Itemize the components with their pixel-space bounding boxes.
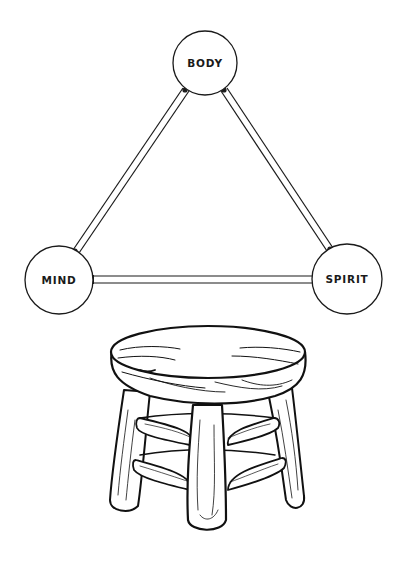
edge-mind-spirit xyxy=(93,275,313,284)
diagram-canvas: BODY MIND SPIRIT xyxy=(0,0,404,563)
node-mind: MIND xyxy=(25,246,93,314)
node-spirit: SPIRIT xyxy=(312,244,382,314)
node-mind-label: MIND xyxy=(41,274,76,286)
edge-body-spirit xyxy=(221,88,333,251)
edge-body-mind xyxy=(73,88,189,253)
node-spirit-label: SPIRIT xyxy=(325,273,368,285)
node-body-label: BODY xyxy=(187,57,223,69)
stool-icon xyxy=(110,326,306,530)
node-body: BODY xyxy=(173,31,237,95)
